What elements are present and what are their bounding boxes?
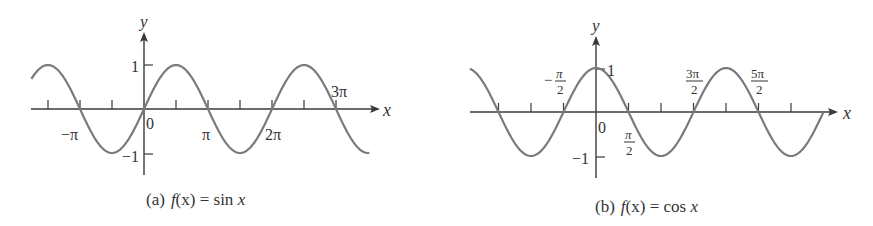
x-tick-label-neg-pi: −π <box>61 126 78 143</box>
x-tick-label-pi-over-2: π 2 <box>624 127 635 158</box>
x-tick-label-3pi: 3π <box>331 83 347 100</box>
caption-b: (b)f(x) = cos x <box>595 197 698 216</box>
caption-a-paren: (x) <box>176 190 196 209</box>
svg-text:2: 2 <box>756 82 763 97</box>
svg-text:π: π <box>556 66 563 81</box>
svg-text:2: 2 <box>691 82 698 97</box>
y-tick-label-1: 1 <box>131 58 139 75</box>
caption-a: (a)f(x) = sin x <box>146 190 246 209</box>
y-tick-label-neg1: −1 <box>122 148 139 165</box>
origin-label: 0 <box>598 119 606 136</box>
svg-text:−: − <box>544 72 552 88</box>
y-tick-label-1: 1 <box>607 62 615 79</box>
chart-cos: y x 1 −1 0 − π 2 π 2 3π 2 5π 2 (b)f(x) <box>470 16 851 216</box>
x-axis-label: x <box>842 103 851 123</box>
origin-label: 0 <box>146 115 154 132</box>
x-tick-label-3pi-over-2: 3π 2 <box>686 66 703 97</box>
x-tick-label-2pi: 2π <box>265 126 281 143</box>
y-tick-label-neg1: −1 <box>572 150 589 167</box>
x-tick-label-neg-pi-over-2: − π 2 <box>544 66 566 97</box>
svg-text:3π: 3π <box>686 66 700 81</box>
x-axis-label: x <box>382 100 391 120</box>
x-ticks <box>48 100 336 109</box>
y-axis-label: y <box>138 12 148 31</box>
x-tick-label-pi: π <box>202 126 210 143</box>
svg-text:π: π <box>625 127 632 142</box>
y-axis-label: y <box>590 16 600 35</box>
svg-text:5π: 5π <box>751 66 765 81</box>
figure: y x 1 −1 0 −π π 2π 3π (a)f(x) = sin x <box>0 0 873 226</box>
svg-text:2: 2 <box>626 143 633 158</box>
x-ticks <box>499 103 792 112</box>
x-tick-label-5pi-over-2: 5π 2 <box>751 66 768 97</box>
svg-text:2: 2 <box>557 82 564 97</box>
chart-sin: y x 1 −1 0 −π π 2π 3π (a)f(x) = sin x <box>31 12 391 209</box>
